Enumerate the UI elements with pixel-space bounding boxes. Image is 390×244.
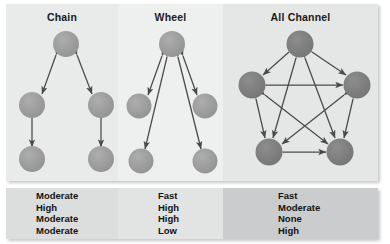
table-cell: High xyxy=(36,202,78,214)
table-cell: Moderate xyxy=(278,202,320,214)
allchannel-node-bottom-left xyxy=(256,139,283,166)
diagram-panel: Chain Wheel All Channel xyxy=(6,4,378,181)
table-cell: High xyxy=(278,225,320,237)
table-column-chain: Moderate High Moderate Moderate xyxy=(36,190,78,237)
wheel-node-hub xyxy=(159,31,185,57)
allchannel-edge-top-left xyxy=(263,52,289,75)
wheel-node-mid-left xyxy=(127,94,152,119)
table-column-all-channel: Fast Moderate None High xyxy=(278,190,320,237)
chain-edge-top-midright xyxy=(77,55,92,94)
allchannel-node-right xyxy=(344,72,371,99)
table-cell: Moderate xyxy=(36,213,78,225)
allchannel-edge-top-right xyxy=(312,52,346,75)
table-cell: Low xyxy=(158,225,179,237)
allchannel-edge-right-bottomright xyxy=(344,99,353,138)
allchannel-edge-left-bottomright xyxy=(265,95,328,144)
allchannel-edge-top-bottomright xyxy=(305,58,335,138)
chain-edge-top-midleft xyxy=(42,55,56,94)
chain-node-mid-right xyxy=(88,92,114,118)
chain-node-bottom-left xyxy=(19,146,45,172)
table-cell: High xyxy=(158,202,179,214)
allchannel-node-left xyxy=(239,72,266,99)
panel-title-all-channel: All Channel xyxy=(223,11,378,23)
wheel-node-bottom-right xyxy=(193,149,218,174)
panel-title-wheel: Wheel xyxy=(118,11,223,23)
chain-node-bottom-right xyxy=(88,146,114,172)
network-comparison-figure: Chain Wheel All Channel Moderate High Mo… xyxy=(0,0,390,244)
table-cell: Moderate xyxy=(36,190,78,202)
table-cell: Fast xyxy=(158,190,179,202)
chain-node-mid-left xyxy=(19,92,45,118)
wheel-node-mid-right xyxy=(193,94,218,119)
panel-title-chain: Chain xyxy=(6,11,118,23)
table-column-wheel: Fast High High Low xyxy=(158,190,179,237)
allchannel-node-bottom-right xyxy=(327,139,354,166)
wheel-edge-hub-midright xyxy=(183,56,197,95)
wheel-node-bottom-left xyxy=(129,149,154,174)
table-cell: Moderate xyxy=(36,225,78,237)
criteria-table-panel: Moderate High Moderate Moderate Fast Hig… xyxy=(6,188,378,239)
chain-node-top xyxy=(53,31,79,57)
table-cell: High xyxy=(158,213,179,225)
network-diagrams-svg xyxy=(6,4,378,181)
table-cell: None xyxy=(278,213,320,225)
allchannel-edge-top-bottomleft xyxy=(273,58,296,138)
table-cell: Fast xyxy=(278,190,320,202)
allchannel-node-top xyxy=(287,31,314,58)
allchannel-edge-left-bottomleft xyxy=(256,99,265,138)
